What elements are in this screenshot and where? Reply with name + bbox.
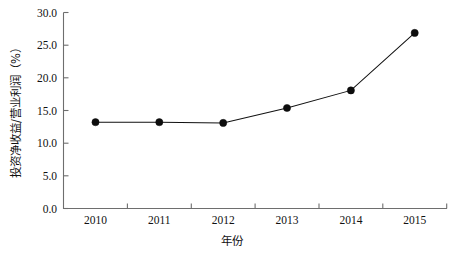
x-tick-label: 2011 — [148, 214, 171, 226]
data-point — [156, 119, 163, 126]
y-tick-label: 10.0 — [37, 137, 57, 149]
x-tick-label: 2010 — [84, 214, 107, 226]
line-chart: 30.0 25.0 20.0 15.0 10.0 5.0 0.0 2010 20… — [0, 0, 453, 256]
y-axis-title: 投资净收益/营业利润（%） — [9, 42, 23, 178]
x-axis-title: 年份 — [221, 234, 244, 248]
y-tick-label: 30.0 — [37, 7, 57, 19]
data-point — [347, 87, 354, 94]
y-tick-label: 20.0 — [37, 72, 57, 84]
data-point — [220, 119, 227, 126]
chart-canvas: 30.0 25.0 20.0 15.0 10.0 5.0 0.0 2010 20… — [0, 0, 453, 256]
y-tick-label: 15.0 — [37, 105, 57, 117]
y-tick-label: 25.0 — [37, 39, 57, 51]
x-tick-label: 2012 — [212, 214, 235, 226]
data-point — [283, 104, 290, 111]
y-tick-label: 5.0 — [43, 170, 58, 182]
data-point — [411, 29, 418, 36]
x-tick-label: 2015 — [403, 214, 426, 226]
y-tick-label: 0.0 — [43, 203, 58, 215]
x-tick-label: 2013 — [276, 214, 299, 226]
x-tick-label: 2014 — [339, 214, 362, 226]
data-point — [92, 119, 99, 126]
